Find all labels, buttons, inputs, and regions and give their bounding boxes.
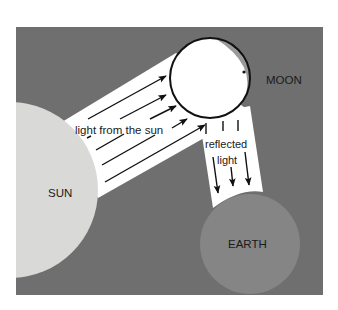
sun-label: SUN <box>48 187 72 199</box>
reflected-light-label-line2: light <box>217 154 237 166</box>
moon-dot <box>242 70 245 73</box>
reflected-light-label-line1: reflected <box>205 138 247 150</box>
incoming-light-label: light from the sun <box>75 124 163 136</box>
sun-moon-earth-diagram: SUN EARTH MOON light from the sun reflec… <box>0 0 338 310</box>
moon-label: MOON <box>266 74 302 86</box>
earth-label: EARTH <box>228 238 267 250</box>
